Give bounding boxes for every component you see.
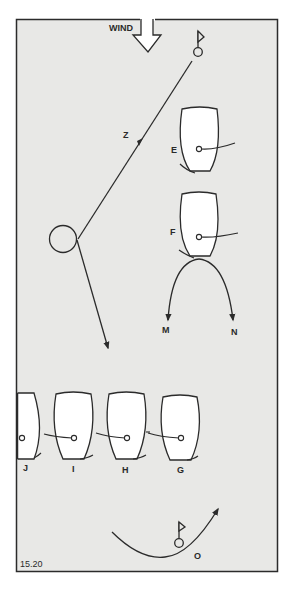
boat-i-label: I bbox=[72, 464, 75, 474]
path-n-label: N bbox=[231, 327, 238, 337]
sailing-diagram: WIND Z E F M N J bbox=[0, 0, 291, 591]
boat-h-label: H bbox=[122, 465, 129, 475]
boat-e-label: E bbox=[171, 145, 177, 155]
boat-g-label: G bbox=[177, 465, 184, 475]
course-label: Z bbox=[123, 130, 129, 140]
figure-number: 15.20 bbox=[20, 559, 43, 569]
wind-label: WIND bbox=[109, 23, 133, 33]
leeward-mark-label: O bbox=[194, 551, 201, 561]
boat-f-label: F bbox=[170, 227, 176, 237]
path-m-label: M bbox=[162, 325, 170, 335]
boat-j-label: J bbox=[23, 463, 28, 473]
figure-frame bbox=[17, 20, 278, 572]
